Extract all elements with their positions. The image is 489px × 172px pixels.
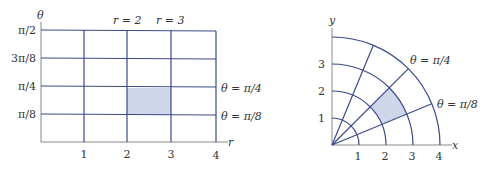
- x-tick-3: 3: [409, 150, 416, 163]
- theta-axis-label: θ: [37, 9, 44, 22]
- x-tick-4: 4: [436, 150, 443, 163]
- x-tick-1: 1: [355, 150, 362, 163]
- right-polar-diagram: [332, 28, 452, 145]
- x-tick-2: 2: [382, 150, 389, 163]
- theta-grid-lines: [41, 30, 216, 142]
- figure-canvas: θ r π/2 3π/8 π/4 π/8 1 2 3 4 r = 2 r = 3…: [0, 0, 489, 172]
- x-tick-1: 1: [81, 148, 88, 161]
- left-rect-diagram: [41, 22, 228, 142]
- x-tick-4: 4: [213, 149, 220, 162]
- label-theta-pi-4: θ = π/4: [221, 82, 262, 95]
- label-theta-pi-8: θ = π/8: [221, 110, 262, 123]
- y-tick-pi-4: π/4: [18, 80, 36, 93]
- y-tick-3: 3: [318, 58, 325, 71]
- x-tick-3: 3: [168, 148, 175, 161]
- x-axis-label: x: [452, 139, 459, 152]
- y-tick-pi-8: π/8: [18, 108, 36, 121]
- shaded-cell: [127, 88, 171, 115]
- ray-label-pi-4: θ = π/4: [410, 54, 451, 67]
- y-tick-2: 2: [318, 85, 325, 98]
- x-tick-2: 2: [124, 148, 131, 161]
- label-r-2: r = 2: [113, 14, 141, 27]
- label-r-3: r = 3: [156, 14, 184, 27]
- y-tick-pi-2: π/2: [18, 24, 36, 37]
- y-axis-label: y: [328, 14, 336, 27]
- shaded-sector: [370, 88, 407, 125]
- r-axis-label: r: [228, 136, 234, 149]
- y-tick-1: 1: [318, 112, 325, 125]
- y-tick-3pi-8: 3π/8: [11, 52, 36, 65]
- ray-label-pi-8: θ = π/8: [437, 98, 478, 111]
